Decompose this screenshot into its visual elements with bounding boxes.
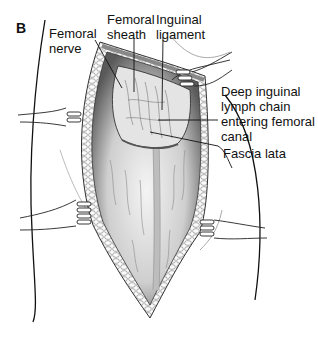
label-inguinal-ligament: Inguinal ligament (156, 12, 205, 42)
surgical-illustration: B Femoral nerve Femoral sheath Inguinal … (0, 0, 318, 342)
panel-label: B (16, 20, 26, 36)
label-femoral-sheath: Femoral sheath (107, 12, 155, 42)
label-deep-inguinal-lymph-chain: Deep inguinal lymph chain entering femor… (221, 84, 315, 144)
label-femoral-nerve: Femoral nerve (49, 26, 97, 56)
anatomy-drawing (0, 0, 318, 342)
label-fascia-lata: Fascia lata (223, 146, 286, 161)
